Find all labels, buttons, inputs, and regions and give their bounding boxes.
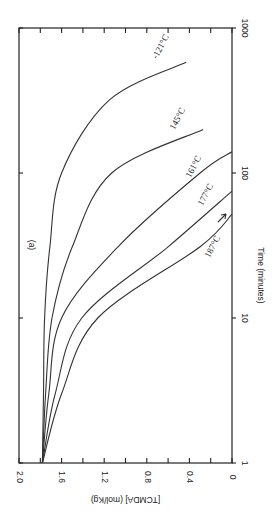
time-tick-label: 1 (240, 461, 250, 466)
plot-frame (19, 28, 232, 463)
conc-tick-label: 0 (228, 475, 238, 480)
curve-145c (42, 129, 203, 463)
curve-label: 145°C (168, 106, 188, 131)
axis-ticks (19, 28, 236, 463)
panel-label: (a) (27, 240, 37, 251)
time-tick-label: 10 (240, 313, 250, 323)
axis-labels: 2.01.61.20.80.401101001000[TCMDA] (mol/K… (15, 19, 266, 505)
conc-tick-label: 0.8 (143, 471, 153, 483)
chart: 2.01.61.20.80.401101001000[TCMDA] (mol/K… (0, 0, 272, 520)
time-tick-label: 100 (240, 166, 250, 180)
y-axis-title: [TCMDA] (mol/Kg) (91, 495, 161, 505)
curve-label: -121°C (150, 33, 171, 61)
conc-tick-label: 1.6 (57, 471, 67, 483)
conc-tick-label: 0.4 (185, 471, 195, 483)
time-tick-label: 1000 (240, 19, 250, 38)
curve-label: 161°C (184, 154, 204, 179)
curve-121c (42, 62, 186, 463)
curve-label: 187°C (203, 234, 223, 259)
plot-border (19, 28, 232, 463)
x-axis-title: Time (minutes) (256, 247, 266, 304)
conc-tick-label: 2.0 (15, 471, 25, 483)
conc-tick-label: 1.2 (100, 471, 110, 483)
arrow-icon (218, 214, 226, 222)
curve-label: 177°C (196, 182, 216, 207)
curve-177c (42, 191, 232, 463)
data-curves (42, 62, 232, 463)
